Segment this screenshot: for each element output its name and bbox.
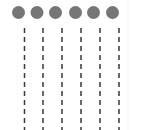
node-circle-4 (69, 6, 82, 19)
diagram-svg (0, 0, 145, 130)
node-circle-3 (49, 6, 62, 19)
lifelines-group (25, 28, 120, 130)
node-circle-1 (12, 6, 25, 19)
node-circle-6 (106, 6, 119, 19)
diagram-canvas (0, 0, 145, 130)
node-circle-2 (31, 6, 44, 19)
nodes-group (12, 6, 119, 19)
node-circle-5 (87, 6, 100, 19)
